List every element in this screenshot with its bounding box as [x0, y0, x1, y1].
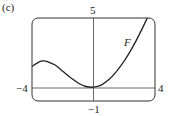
x-max-label: 4 [158, 83, 164, 94]
function-curve-F [32, 18, 147, 87]
x-min-label: −4 [16, 83, 28, 94]
curve-label-F: F [124, 37, 131, 48]
chart-plot [0, 0, 172, 116]
y-min-label: −1 [88, 104, 100, 115]
y-max-label: 5 [90, 5, 96, 16]
